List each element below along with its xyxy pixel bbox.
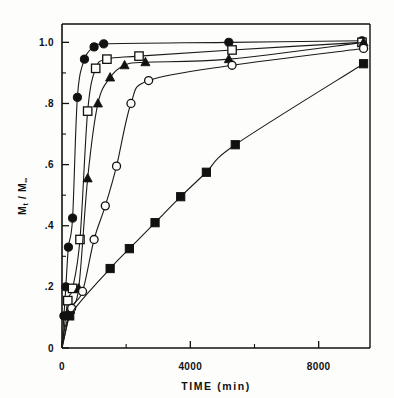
filled-circle-marker [64, 243, 72, 251]
figure-panel: 040008000 0.2.4.6.81.0 TIME (min) Mt / M… [0, 0, 394, 398]
y-tick-label: .4 [45, 220, 54, 231]
filled-square-marker [151, 219, 159, 227]
open-circle-marker [101, 202, 109, 210]
open-square-marker [64, 296, 72, 304]
y-axis-label: Mt / M∞ [16, 177, 29, 215]
open-circle-marker [90, 235, 98, 243]
filled-triangle-marker [120, 60, 129, 68]
open-square-marker [103, 55, 111, 63]
filled-circle-marker [90, 43, 98, 51]
y-tick-label: 0 [48, 343, 54, 354]
x-tick-label: 0 [59, 361, 65, 372]
series-filled-triangle [62, 37, 368, 348]
sorption-kinetics-chart: 040008000 0.2.4.6.81.0 TIME (min) Mt / M… [0, 0, 394, 398]
filled-square-marker [125, 245, 133, 253]
open-square-marker [135, 52, 143, 60]
filled-circle-marker [73, 93, 81, 101]
open-circle-marker [113, 162, 121, 170]
x-axis-label: TIME (min) [181, 380, 251, 392]
open-circle-marker [127, 99, 135, 107]
open-square-marker [83, 107, 91, 115]
open-circle-marker [79, 287, 87, 295]
filled-square-marker [359, 60, 367, 68]
x-axis-ticks [62, 341, 319, 348]
series-open-square [62, 38, 366, 348]
y-label-sub-inf: ∞ [22, 177, 29, 183]
y-label-m1: M [16, 206, 28, 215]
open-square-marker [228, 46, 236, 54]
y-label-m2: M [16, 183, 28, 192]
x-tick-label: 8000 [307, 361, 331, 372]
svg-text:Mt / M∞: Mt / M∞ [16, 177, 29, 215]
filled-triangle-marker [93, 99, 102, 107]
filled-circle-marker [100, 40, 108, 48]
x-axis-tick-labels: 040008000 [59, 361, 331, 372]
data-series-layer [60, 37, 368, 348]
series-open-circle-curve [62, 48, 364, 348]
open-square-marker [91, 64, 99, 72]
filled-square-marker [202, 168, 210, 176]
plot-frame [62, 24, 370, 348]
y-tick-label: 1.0 [39, 37, 54, 48]
series-filled-circle-curve [62, 41, 362, 348]
filled-circle-marker [68, 214, 76, 222]
series-filled-triangle-curve [62, 42, 364, 348]
open-circle-marker [145, 77, 153, 85]
filled-square-marker [66, 312, 74, 320]
x-tick-label: 4000 [178, 361, 202, 372]
y-tick-label: .6 [45, 159, 54, 170]
open-circle-marker [360, 44, 368, 52]
filled-square-marker [231, 141, 239, 149]
filled-square-marker [177, 193, 185, 201]
y-label-slash: / [16, 192, 28, 203]
open-circle-marker [228, 61, 236, 69]
filled-triangle-marker [83, 173, 92, 181]
y-tick-label: .8 [45, 98, 54, 109]
y-tick-label: .2 [45, 281, 54, 292]
filled-square-marker [106, 264, 114, 272]
y-axis-tick-labels: 0.2.4.6.81.0 [39, 37, 54, 354]
filled-circle-marker [80, 55, 88, 63]
series-open-square-curve [62, 42, 362, 348]
